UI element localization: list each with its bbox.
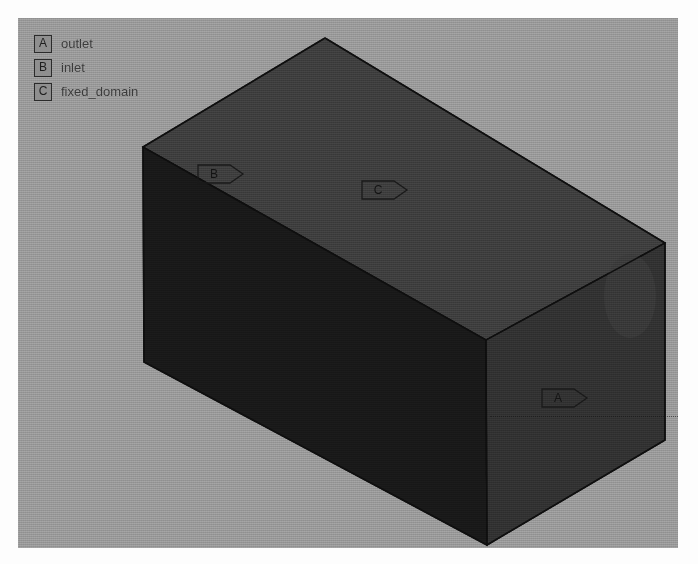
tag-shape-pentagon bbox=[362, 181, 407, 199]
face-tag-c[interactable]: C bbox=[361, 178, 409, 202]
application-root: A B C A outlet B inlet bbox=[0, 0, 698, 564]
legend-swatch-b: B bbox=[34, 59, 52, 77]
face-highlight-smudge bbox=[604, 254, 656, 338]
legend-label-inlet: inlet bbox=[61, 60, 85, 75]
face-tag-c-text: C bbox=[374, 183, 383, 197]
tag-shape-pentagon bbox=[542, 389, 587, 407]
3d-model-viewport[interactable]: A B C A outlet B inlet bbox=[18, 18, 678, 548]
face-tag-a[interactable]: A bbox=[541, 386, 589, 410]
face-tag-b-text: B bbox=[210, 167, 218, 181]
legend-row-a[interactable]: A outlet bbox=[34, 32, 138, 55]
legend-swatch-a: A bbox=[34, 35, 52, 53]
legend-swatch-c: C bbox=[34, 83, 52, 101]
legend-row-c[interactable]: C fixed_domain bbox=[34, 80, 138, 103]
face-tag-a-text: A bbox=[554, 391, 562, 405]
boundary-legend: A outlet B inlet C fixed_domain bbox=[34, 32, 138, 104]
legend-label-outlet: outlet bbox=[61, 36, 93, 51]
tag-shape-pentagon bbox=[198, 165, 243, 183]
leader-line-a bbox=[490, 416, 678, 418]
legend-label-fixed-domain: fixed_domain bbox=[61, 84, 138, 99]
legend-row-b[interactable]: B inlet bbox=[34, 56, 138, 79]
face-tag-b[interactable]: B bbox=[197, 162, 245, 186]
